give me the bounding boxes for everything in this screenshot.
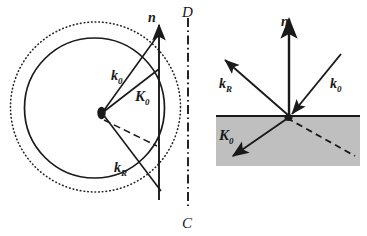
medium-region xyxy=(216,116,360,166)
left-label-K0: K0 xyxy=(134,88,150,107)
right-label-k0: k0 xyxy=(330,76,342,94)
right-label-kR: kR xyxy=(219,76,232,94)
incidence-point xyxy=(285,114,293,121)
inner-solid-circle xyxy=(25,38,165,178)
outer-dotted-circle xyxy=(11,22,181,192)
right-label-n: n xyxy=(281,14,289,29)
right-panel: n k0 kR K0 xyxy=(216,14,360,166)
left-vector-kR xyxy=(102,113,161,191)
left-origin-point xyxy=(97,107,105,119)
scattering-figure: k0 K0 kR n D C xyxy=(0,0,367,236)
right-vector-kR xyxy=(225,60,288,115)
left-label-k0: k0 xyxy=(111,68,123,86)
left-label-kR: kR xyxy=(114,160,127,178)
left-label-C: C xyxy=(182,215,193,231)
left-label-D: D xyxy=(181,4,193,20)
figure-canvas: k0 K0 kR n D C xyxy=(0,0,367,236)
left-dashed-ray xyxy=(104,120,157,146)
left-panel: k0 K0 kR n D C xyxy=(11,4,194,231)
left-label-n: n xyxy=(148,10,156,25)
